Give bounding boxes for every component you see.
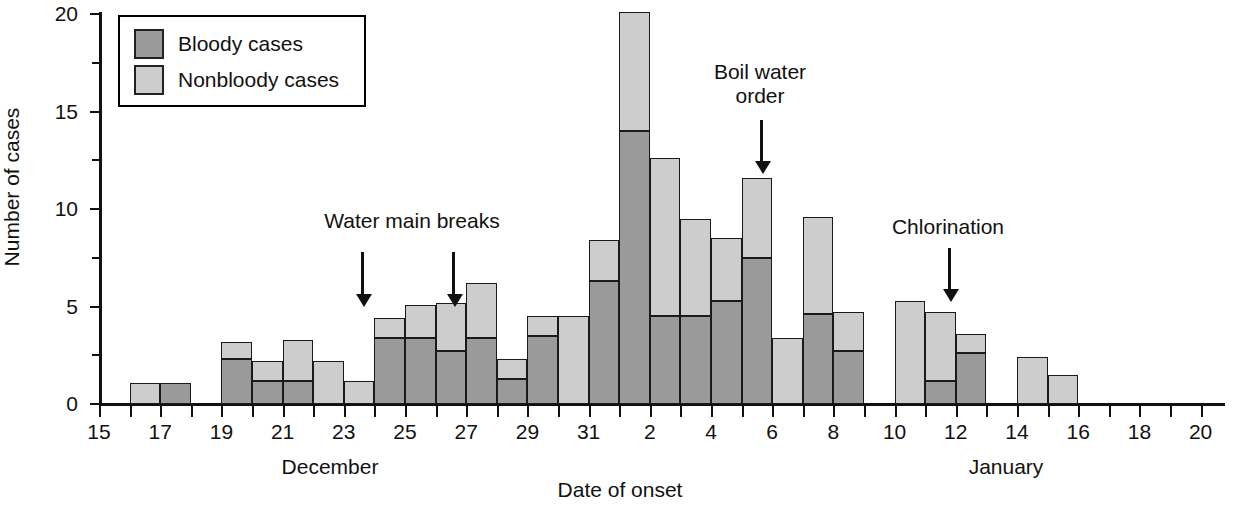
x-axis-title: Date of onset (0, 478, 1240, 502)
x-tick-11 (436, 406, 438, 417)
bar-segment-bloody (680, 316, 711, 404)
x-tick-17 (619, 406, 621, 417)
bar-segment-bloody (742, 258, 773, 404)
bar-column (466, 283, 497, 404)
x-tick-label-20: 20 (1181, 420, 1221, 443)
arrow-head-icon-2-0 (943, 289, 959, 302)
bar-column (711, 238, 742, 404)
x-tick-label-2: 2 (630, 420, 670, 443)
x-tick-label-14: 14 (997, 420, 1037, 443)
bar-segment-nonbloody (1048, 375, 1079, 404)
y-tick-10 (90, 208, 99, 210)
y-tick-minor-12.5 (92, 159, 99, 161)
annotation-boil-water-line1: Boil water (665, 60, 855, 84)
bar-segment-nonbloody (283, 340, 314, 381)
bar-segment-nonbloody (772, 338, 803, 404)
arrow-head-icon-1-0 (755, 161, 771, 174)
bar-segment-bloody (589, 281, 620, 404)
bar-segment-nonbloody (619, 12, 650, 131)
bar-segment-bloody (527, 336, 558, 404)
bar-segment-nonbloody (711, 238, 742, 300)
y-tick-label-15: 15 (40, 101, 78, 122)
x-tick-8 (344, 406, 346, 417)
bar-segment-nonbloody (497, 359, 528, 379)
bar-segment-nonbloody (558, 316, 589, 404)
bar-column (619, 12, 650, 404)
y-tick-0 (90, 403, 99, 405)
x-tick-label-25: 25 (385, 420, 425, 443)
arrow-shaft-1-0 (760, 120, 763, 162)
x-tick-29 (986, 406, 988, 417)
x-tick-10 (405, 406, 407, 417)
legend: Bloody cases Nonbloody cases (118, 15, 366, 107)
x-tick-28 (956, 406, 958, 417)
bar-segment-nonbloody (680, 219, 711, 317)
bar-segment-nonbloody (252, 361, 283, 381)
x-tick-label-8: 8 (813, 420, 853, 443)
x-tick-12 (466, 406, 468, 417)
x-tick-26 (895, 406, 897, 417)
x-tick-16 (589, 406, 591, 417)
bar-segment-nonbloody (527, 316, 558, 336)
annotation-label-water-main-breaks: Water main breaks (262, 209, 562, 233)
x-tick-label-17: 17 (140, 420, 180, 443)
bar-column (803, 217, 834, 404)
bar-segment-nonbloody (466, 283, 497, 338)
bar-segment-bloody (436, 351, 467, 404)
arrow-shaft-0-1 (452, 252, 455, 295)
annotation-boil-water-line2: order (665, 84, 855, 108)
bar-column (283, 340, 314, 404)
bar-segment-nonbloody (313, 361, 344, 404)
bar-segment-nonbloody (344, 381, 375, 404)
y-tick-20 (90, 13, 99, 15)
x-tick-label-12: 12 (936, 420, 976, 443)
x-tick-32 (1078, 406, 1080, 417)
bar-segment-nonbloody (650, 158, 681, 316)
arrow-head-icon-0-0 (356, 294, 372, 307)
bar-column (313, 361, 344, 404)
x-tick-23 (803, 406, 805, 417)
x-tick-label-31: 31 (569, 420, 609, 443)
bar-segment-nonbloody (221, 342, 252, 360)
x-tick-31 (1048, 406, 1050, 417)
y-axis-title: Number of cases (0, 87, 24, 287)
bar-segment-bloody (803, 314, 834, 404)
y-tick-minor-2.5 (92, 354, 99, 356)
bar-segment-nonbloody (742, 178, 773, 258)
bar-segment-nonbloody (895, 301, 926, 404)
y-tick-15 (90, 111, 99, 113)
bar-column (497, 359, 528, 404)
x-tick-0 (99, 406, 101, 417)
legend-swatch-bloody-icon (134, 29, 164, 59)
x-tick-label-27: 27 (446, 420, 486, 443)
x-tick-9 (374, 406, 376, 417)
x-tick-label-16: 16 (1058, 420, 1098, 443)
y-tick-label-5: 5 (40, 296, 78, 317)
x-tick-20 (711, 406, 713, 417)
arrow-shaft-0-0 (361, 252, 364, 295)
bar-segment-nonbloody (130, 383, 161, 404)
bar-column (160, 383, 191, 404)
x-tick-label-21: 21 (263, 420, 303, 443)
bar-segment-bloody (956, 353, 987, 404)
legend-swatch-nonbloody-icon (134, 65, 164, 95)
x-tick-label-6: 6 (752, 420, 792, 443)
bar-column (833, 312, 864, 404)
bar-column (374, 318, 405, 404)
bar-segment-bloody (374, 338, 405, 404)
bar-column (436, 303, 467, 404)
arrow-head-icon-0-1 (447, 294, 463, 307)
x-tick-4 (221, 406, 223, 417)
x-tick-label-29: 29 (507, 420, 547, 443)
x-tick-18 (650, 406, 652, 417)
y-tick-minor-17.5 (92, 62, 99, 64)
bar-segment-nonbloody (436, 303, 467, 352)
x-tick-14 (527, 406, 529, 417)
x-tick-5 (252, 406, 254, 417)
bar-column (558, 316, 589, 404)
bar-column (1048, 375, 1079, 404)
x-tick-7 (313, 406, 315, 417)
bar-column (956, 334, 987, 404)
bar-segment-bloody (283, 381, 314, 404)
bar-segment-nonbloody (405, 305, 436, 338)
